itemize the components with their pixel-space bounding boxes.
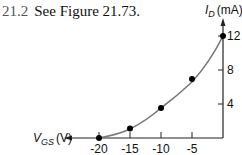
data-point — [189, 76, 195, 82]
y-axis-arrow-icon — [221, 18, 226, 26]
data-point — [127, 126, 133, 132]
y-tick-label: 4 — [227, 97, 234, 111]
y-tick-label: 12 — [227, 29, 241, 43]
data-points — [96, 33, 226, 141]
y-ticks: 12 8 4 — [218, 29, 241, 111]
x-tick-label: -20 — [90, 142, 108, 155]
y-axis-label: ID(mA) — [205, 3, 242, 19]
x-axis-label: VGS(V) — [33, 131, 72, 147]
data-point — [220, 33, 226, 39]
data-point — [96, 135, 102, 141]
x-tick-label: -5 — [187, 142, 198, 155]
x-ticks: -20 -15 -10 -5 — [90, 132, 197, 155]
y-tick-label: 8 — [227, 63, 234, 77]
data-point — [158, 105, 164, 111]
transfer-curve — [99, 36, 223, 138]
x-tick-label: -15 — [121, 142, 139, 155]
transfer-characteristic-chart: 12 8 4 -20 -15 -10 -5 ID(mA) VGS(V) — [0, 0, 242, 155]
x-tick-label: -10 — [152, 142, 170, 155]
